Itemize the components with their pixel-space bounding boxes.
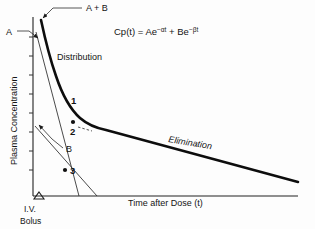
equation-mid: + Be xyxy=(166,26,188,37)
a-leader xyxy=(17,31,38,38)
equation-lead: Cp(t) = Ae xyxy=(114,26,157,37)
label-point-1: 1 xyxy=(71,95,77,106)
x-axis-label: Time after Dose (t) xyxy=(128,198,203,208)
iv-bolus-label-line1: I.V. xyxy=(24,204,36,214)
label-point-2: 2 xyxy=(70,126,75,137)
y-axis-label: Plasma Concentration xyxy=(9,76,19,165)
chart-canvas: A + B A B Distribution Elimination 1 2 3… xyxy=(0,0,315,229)
equation-exponent-alpha: −αt xyxy=(157,26,167,33)
y-axis-ticks xyxy=(29,37,33,170)
data-point-3 xyxy=(63,168,67,172)
beta-extrapolated-line xyxy=(35,126,97,196)
equation-label: Cp(t) = Ae−αt + Be−βt xyxy=(114,26,198,37)
data-point-2 xyxy=(71,120,75,124)
pharmacokinetics-figure: A + B A B Distribution Elimination 1 2 3… xyxy=(0,0,315,229)
iv-bolus-label-line2: Bolus xyxy=(20,216,41,226)
label-a: A xyxy=(6,27,12,37)
a-plus-b-leader xyxy=(43,8,82,18)
label-point-3: 3 xyxy=(70,165,75,176)
equation-exponent-beta: −βt xyxy=(189,26,199,34)
label-b: B xyxy=(66,144,72,154)
plasma-concentration-curve xyxy=(41,20,298,182)
label-distribution: Distribution xyxy=(57,52,102,62)
point-2-leader xyxy=(78,127,92,131)
label-a-plus-b: A + B xyxy=(86,3,108,13)
